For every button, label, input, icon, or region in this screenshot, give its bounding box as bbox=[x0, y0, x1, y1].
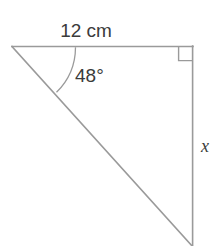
right-angle-square-icon bbox=[179, 47, 193, 61]
right-side-label: x bbox=[200, 136, 209, 156]
angle-arc-icon bbox=[57, 47, 76, 92]
triangle-diagram: 12 cm 48° x bbox=[0, 0, 218, 246]
top-side-label: 12 cm bbox=[60, 20, 112, 41]
angle-label: 48° bbox=[75, 65, 104, 86]
